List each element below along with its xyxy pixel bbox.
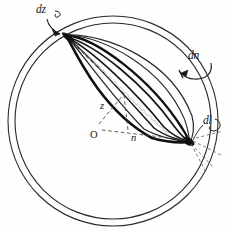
label-dn: dn — [188, 50, 199, 62]
lens-tip-lower-right-blob — [184, 137, 195, 146]
arc-bundle-group — [66, 35, 193, 142]
dl-ray-1 — [191, 144, 214, 168]
construction-line-tick — [124, 95, 128, 130]
label-n: n — [131, 133, 136, 144]
diagram-svg — [0, 0, 230, 232]
lens-axis-streak-2 — [80, 48, 172, 136]
label-dl: dl — [203, 115, 211, 127]
lens-arc-wide-inner — [66, 35, 190, 142]
figure-canvas: dz dn dl z n O — [0, 0, 230, 232]
speck-3 — [60, 104, 61, 105]
lens-axis-streak — [76, 46, 168, 134]
dz-leader-group — [47, 11, 60, 36]
lens-arc-interior-1 — [67, 37, 190, 142]
label-dz: dz — [36, 4, 46, 16]
speck-2 — [147, 151, 148, 152]
lens-arc-outer-lower — [66, 35, 190, 142]
dn-leader-group — [179, 63, 211, 79]
dl-rays-group — [191, 131, 223, 172]
inner-circle — [15, 23, 211, 219]
label-z: z — [100, 101, 104, 112]
label-origin-o: O — [90, 130, 98, 141]
dz-flourish — [55, 11, 60, 17]
speck-1 — [105, 159, 106, 160]
lens-arc-outer-upper — [66, 35, 190, 142]
